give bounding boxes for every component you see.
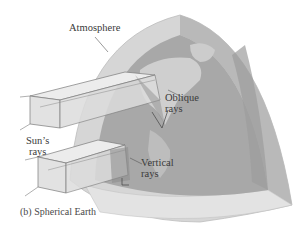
oblique-rays-label: Oblique rays	[165, 92, 199, 114]
suns-rays-label-line2: rays	[26, 146, 49, 157]
spherical-earth-diagram: Atmosphere Oblique rays Vertical rays Su…	[0, 0, 302, 226]
diagram-svg	[0, 0, 302, 226]
vertical-rays-label-line2: rays	[141, 168, 174, 179]
oblique-rays-label-line1: Oblique	[165, 92, 199, 103]
atmosphere-label: Atmosphere	[69, 22, 120, 33]
suns-rays-label-line1: Sun’s	[26, 135, 49, 146]
suns-rays-label: Sun’s rays	[26, 135, 49, 157]
vertical-rays-label-line1: Vertical	[141, 157, 174, 168]
figure-caption: (b) Spherical Earth	[20, 206, 96, 217]
atmosphere-leader-line	[95, 37, 108, 52]
oblique-rays-label-line2: rays	[165, 103, 199, 114]
vertical-rays-label: Vertical rays	[141, 157, 174, 179]
